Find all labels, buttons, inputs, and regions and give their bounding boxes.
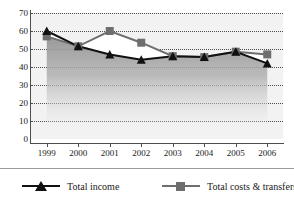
y-tick-label: 60 bbox=[19, 27, 28, 36]
x-tick bbox=[47, 143, 48, 147]
y-tick-label: 70 bbox=[19, 9, 28, 18]
square-marker bbox=[162, 180, 200, 192]
x-tick-label: 2004 bbox=[189, 148, 219, 158]
y-tick-label: 20 bbox=[19, 99, 28, 108]
x-axis-line bbox=[30, 143, 284, 144]
y-tick-label: 0 bbox=[24, 135, 29, 144]
x-tick bbox=[141, 143, 142, 147]
x-tick bbox=[236, 143, 237, 147]
x-tick-label: 2006 bbox=[252, 148, 282, 158]
x-tick bbox=[204, 143, 205, 147]
line-chart: 010203040506070 bbox=[0, 0, 294, 201]
legend-label: Total income bbox=[67, 181, 119, 192]
square-icon bbox=[176, 182, 185, 191]
x-tick-label: 2000 bbox=[63, 148, 93, 158]
x-axis-tick-labels: 19992000200120022003200420052006 bbox=[0, 148, 294, 162]
legend-item-total-costs-transfers: Total costs & transfers bbox=[162, 178, 294, 194]
legend-item-total-income: Total income bbox=[22, 178, 119, 194]
plot-area bbox=[31, 13, 283, 139]
series-canvas bbox=[31, 13, 283, 139]
triangle-icon bbox=[35, 181, 47, 191]
x-tick-label: 1999 bbox=[32, 148, 62, 158]
y-axis-line bbox=[30, 10, 31, 143]
y-tick-label: 10 bbox=[19, 117, 28, 126]
y-tick-label: 30 bbox=[19, 81, 28, 90]
x-tick bbox=[267, 143, 268, 147]
x-tick bbox=[78, 143, 79, 147]
x-tick-label: 2003 bbox=[158, 148, 188, 158]
y-axis-tick-labels: 010203040506070 bbox=[6, 9, 28, 143]
y-tick-label: 40 bbox=[19, 63, 28, 72]
x-tick bbox=[173, 143, 174, 147]
x-tick-label: 2002 bbox=[126, 148, 156, 158]
square-data-point bbox=[137, 39, 145, 47]
square-data-point bbox=[106, 27, 114, 35]
x-tick bbox=[110, 143, 111, 147]
x-tick-label: 2001 bbox=[95, 148, 125, 158]
square-data-point bbox=[263, 50, 271, 58]
triangle-marker bbox=[22, 180, 60, 192]
y-tick-label: 50 bbox=[19, 45, 28, 54]
chart-legend: Total income Total costs & transfers bbox=[0, 168, 294, 201]
x-tick-label: 2005 bbox=[221, 148, 251, 158]
triangle-data-point bbox=[42, 27, 51, 36]
legend-label: Total costs & transfers bbox=[207, 181, 294, 192]
plot-wrapper: 010203040506070 bbox=[0, 0, 294, 166]
